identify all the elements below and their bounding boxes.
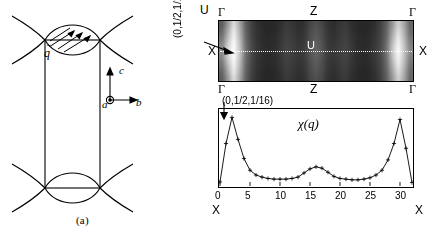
chi-data-point [410,180,414,184]
chi-function-label: χ(q) [298,116,319,132]
chi-data-point [314,165,318,169]
chi-data-point [290,176,294,180]
x-axis-tick-label: 10 [275,190,286,201]
chevron-br-lower [100,188,133,212]
map-label-z-bottom: Z [310,82,317,96]
map-annotation-arrow [202,34,262,74]
x-axis-tick-label: 25 [365,190,376,201]
chi-data-point [350,178,354,182]
chi-data-point [224,141,228,145]
axis-label-b: b [136,96,142,108]
chi-data-point [368,176,372,180]
axis-label-c: c [119,64,124,76]
map-label-gamma-top-right: Γ [409,5,416,20]
panel-a: c b a → q (a) [0,0,200,244]
panel-b: U Γ Γ Γ Γ Z Z X X (0,1/2,1/16) (0,1/2,1/… [200,0,442,244]
x-axis-tick-label: 30 [395,190,406,201]
map-label-gamma-bottom-right: Γ [409,82,416,97]
q-vector-accent: → [45,39,54,49]
chi-data-point [236,137,240,141]
panel-a-caption: (a) [76,214,89,226]
chi-data-point [278,177,282,181]
chi-data-point [272,177,276,181]
chi-data-point [266,176,270,180]
chi-data-point [404,146,408,150]
chi-data-point [338,176,342,180]
x-axis-tick-label: 20 [335,190,346,201]
figure-root: c b a → q (a) U Γ Γ Γ Γ Z Z X X (0,1/2,1… [0,0,442,244]
axis-label-a: a [102,98,108,110]
chevron-tl-upper [12,16,45,40]
map-label-z-top: Z [310,4,317,18]
x-axis-tick-label: 0 [215,190,221,201]
q-vector-label: → q [44,46,50,61]
chevron-tr-upper [100,16,133,40]
chevron-tr-lower [100,40,133,64]
plot-endlabel-x-left: X [212,203,220,217]
chi-data-point [386,158,390,162]
chi-data-point [260,175,264,179]
x-axis-tick-label: 15 [305,190,316,201]
plot-endlabel-x-right: X [415,203,423,217]
panel-a-schematic [0,0,200,244]
chi-data-point [344,177,348,181]
chevron-bl-upper [12,164,45,188]
x-axis-tick-label: 5 [245,190,251,201]
chi-data-point [398,117,402,121]
map-label-gamma-top-left: Γ [218,5,225,20]
chi-data-point [356,178,360,182]
plot-xlabel-U: U [200,3,209,17]
map-label-U: U [307,39,315,51]
chevron-br-upper [100,164,133,188]
chi-data-point [284,177,288,181]
zone-rectangle [45,40,100,188]
chi-data-point [242,156,246,160]
plot-peak-arrow [214,100,244,122]
map-annotation-label: (0,1/2,1/16) [172,0,183,38]
chi-data-point [362,177,366,181]
chevron-bl-lower [12,188,45,212]
chevron-tl-lower [12,40,45,64]
chi-data-point [392,141,396,145]
map-label-x-right: X [419,44,427,58]
chi-line-plot-wrapper: χ(q) 051015202530 [218,108,414,188]
